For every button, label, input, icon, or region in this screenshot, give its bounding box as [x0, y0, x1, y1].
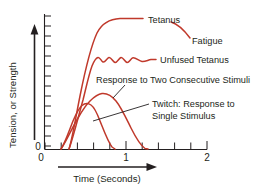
curve-unfused-tetanus: [69, 57, 156, 149]
x-axis-label: Time (Seconds): [73, 173, 140, 184]
muscle-tension-chart: Tension, or Strength 0 1 2: [0, 0, 268, 186]
annotation-fatigue: Fatigue: [192, 36, 223, 46]
annotation-twitch-line1: Twitch: Response to: [152, 99, 235, 109]
x-tick-label-1: 1: [123, 152, 129, 163]
x-tick-label-0: 0: [38, 152, 44, 163]
y-axis-ticks: [45, 16, 52, 146]
chart-canvas: Tension, or Strength 0 1 2: [0, 0, 268, 186]
y-axis-label: Tension, or Strength: [7, 62, 18, 148]
annotation-unfused-tetanus: Unfused Tetanus: [160, 55, 229, 65]
y-axis-title-group: Tension, or Strength: [7, 24, 38, 148]
leader-two-stimuli: [113, 85, 125, 98]
y-axis-arrow-head: [31, 24, 39, 35]
leader-twitch: [93, 104, 149, 121]
annotation-two-stimuli: Response to Two Consecutive Stimuli: [96, 75, 250, 85]
y-axis: [45, 14, 52, 149]
x-axis-arrow-head: [147, 163, 158, 171]
x-axis: 0 1 2 0: [35, 141, 210, 163]
x-axis-title-group: Time (Seconds): [58, 163, 157, 184]
curve-twitch: [61, 104, 115, 149]
y-origin-label: 0: [35, 141, 41, 152]
annotation-tetanus: Tetanus: [148, 15, 181, 25]
annotation-twitch-line2: Single Stimulus: [152, 111, 216, 121]
annotation-leaders: [93, 85, 149, 121]
x-tick-label-2: 2: [204, 152, 210, 163]
curve-two-stimuli: [61, 93, 148, 149]
